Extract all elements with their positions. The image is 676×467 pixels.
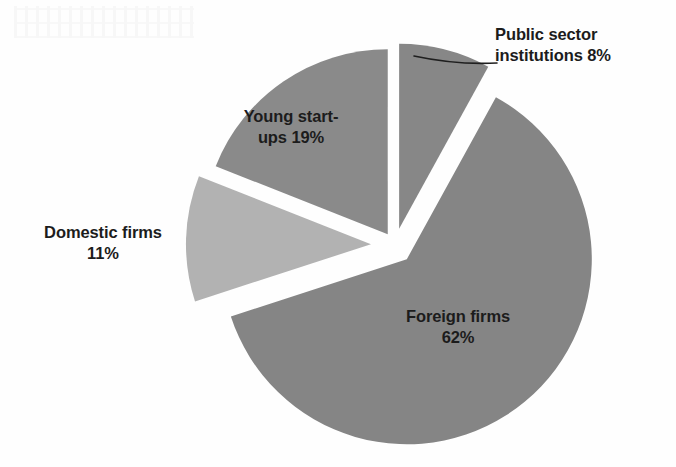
slice-label-public-sector-line2: institutions 8% <box>495 45 670 66</box>
slice-label-domestic-firms-line1: Domestic firms <box>18 222 188 243</box>
slice-label-young-startups-line2: ups 19% <box>222 127 360 148</box>
slice-label-foreign-firms: Foreign firms 62% <box>384 306 532 347</box>
slice-label-public-sector: Public sector institutions 8% <box>495 24 670 65</box>
slice-label-young-startups-line1: Young start- <box>222 106 360 127</box>
slice-label-foreign-firms-line1: Foreign firms <box>384 306 532 327</box>
pie-chart-figure: Public sector institutions 8% Young star… <box>0 0 676 467</box>
pie-slice-group <box>186 44 592 444</box>
slice-label-foreign-firms-line2: 62% <box>384 327 532 348</box>
slice-label-young-startups: Young start- ups 19% <box>222 106 360 147</box>
slice-label-public-sector-line1: Public sector <box>495 24 670 45</box>
slice-label-domestic-firms: Domestic firms 11% <box>18 222 188 263</box>
slice-label-domestic-firms-line2: 11% <box>18 243 188 264</box>
